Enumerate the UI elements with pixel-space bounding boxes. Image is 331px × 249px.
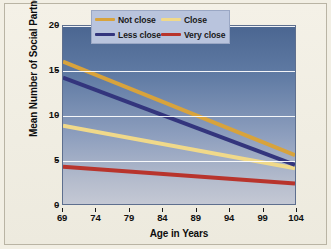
legend: Not close Close Less close Very close <box>91 10 230 44</box>
x-axis-tick-label: 104 <box>288 213 303 223</box>
legend-item-very-close: Very close <box>161 30 226 40</box>
gridline <box>63 161 295 162</box>
legend-swatch-close <box>161 18 181 21</box>
series-line-very-close <box>63 167 295 184</box>
legend-label-close: Close <box>184 15 207 25</box>
series-lines <box>63 26 295 204</box>
figure-frame: Mean Number of Social Partners 05101520 … <box>4 3 327 245</box>
legend-item-less-close: Less close <box>95 30 161 40</box>
x-axis-tick <box>129 208 130 212</box>
x-axis-tick <box>229 208 230 212</box>
x-axis-tick <box>62 208 63 212</box>
legend-label-very-close: Very close <box>184 30 226 40</box>
x-axis-labels: 69747984899499104 <box>45 208 313 224</box>
x-axis-tick-label: 74 <box>90 213 100 223</box>
x-axis-tick <box>296 208 297 212</box>
series-line-not-close <box>63 62 295 155</box>
x-axis-tick-label: 69 <box>57 213 67 223</box>
legend-swatch-less-close <box>95 33 115 36</box>
y-axis-tick <box>55 205 59 206</box>
y-axis-tick <box>55 25 59 26</box>
x-axis-tick <box>162 208 163 212</box>
x-axis-tick <box>263 208 264 212</box>
legend-label-not-close: Not close <box>118 15 156 25</box>
x-axis-title: Age in Years <box>62 228 296 239</box>
y-axis-tick <box>55 115 59 116</box>
x-axis-tick-label: 84 <box>157 213 167 223</box>
x-axis-tick <box>95 208 96 212</box>
legend-item-close: Close <box>161 15 226 25</box>
legend-label-less-close: Less close <box>118 30 161 40</box>
x-axis-tick-label: 94 <box>224 213 234 223</box>
gridline <box>63 116 295 117</box>
y-axis-tick <box>55 70 59 71</box>
x-axis-tick <box>196 208 197 212</box>
x-axis-tick-label: 99 <box>258 213 268 223</box>
legend-item-not-close: Not close <box>95 15 161 25</box>
gridline <box>63 71 295 72</box>
legend-swatch-very-close <box>161 33 181 36</box>
y-axis-tick <box>55 160 59 161</box>
y-axis-labels: 05101520 <box>35 18 59 212</box>
x-axis-tick-label: 79 <box>124 213 134 223</box>
x-axis-tick-label: 89 <box>191 213 201 223</box>
legend-swatch-not-close <box>95 18 115 21</box>
series-line-less-close <box>63 78 295 165</box>
chart-page: Mean Number of Social Partners 05101520 … <box>0 0 331 249</box>
plot-area <box>62 25 296 205</box>
